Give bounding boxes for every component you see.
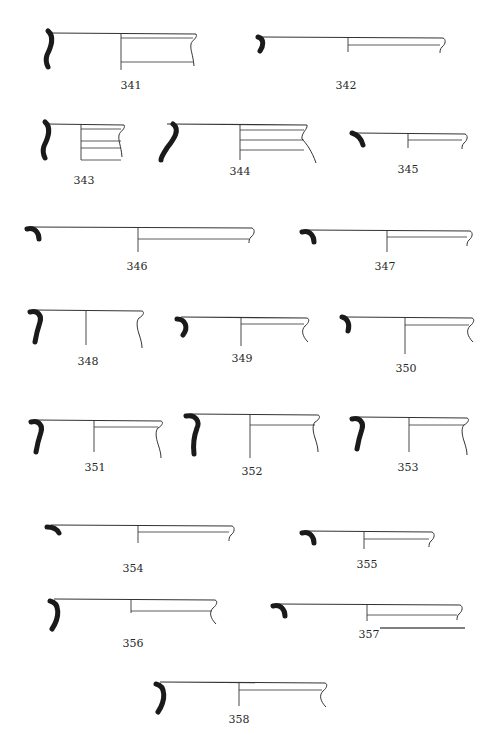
wall-outline bbox=[249, 228, 254, 243]
profile-drawings bbox=[0, 0, 498, 746]
wall-outline bbox=[440, 38, 445, 53]
wall-outline bbox=[429, 532, 434, 547]
profile-figure-341 bbox=[46, 31, 196, 70]
profile-figure-356 bbox=[50, 599, 217, 629]
section-profile bbox=[186, 416, 198, 454]
section-profile bbox=[342, 317, 349, 331]
figure-number: 349 bbox=[232, 352, 253, 365]
wall-outline bbox=[303, 318, 309, 342]
wall-outline bbox=[229, 526, 234, 541]
figure-number: 347 bbox=[375, 260, 396, 273]
profile-figure-347 bbox=[302, 230, 472, 252]
wall-outline bbox=[462, 418, 468, 455]
rim-line bbox=[356, 417, 467, 418]
rim-line bbox=[277, 604, 460, 605]
section-profile bbox=[27, 229, 39, 239]
profile-figure-358 bbox=[156, 682, 327, 712]
figure-number: 357 bbox=[359, 628, 380, 641]
figure-number: 355 bbox=[357, 558, 378, 571]
section-profile bbox=[177, 319, 186, 335]
rim-line bbox=[47, 124, 124, 125]
rim-line bbox=[54, 599, 215, 600]
wall-outline bbox=[137, 311, 143, 348]
profile-figure-346 bbox=[27, 227, 254, 252]
profile-figure-344 bbox=[161, 124, 316, 163]
rim-line bbox=[306, 531, 432, 532]
wall-outline bbox=[457, 605, 462, 620]
figure-number: 353 bbox=[398, 461, 419, 474]
profile-figure-348 bbox=[30, 310, 143, 348]
rim-line bbox=[31, 227, 252, 228]
wall-outline bbox=[191, 34, 197, 66]
rim-line bbox=[35, 420, 161, 421]
rim-line bbox=[346, 317, 472, 318]
figure-number: 350 bbox=[396, 362, 417, 375]
wall-outline bbox=[119, 125, 125, 157]
wall-outline bbox=[156, 421, 162, 458]
rim-line bbox=[356, 133, 465, 134]
wall-outline bbox=[467, 231, 472, 246]
section-profile bbox=[352, 419, 363, 449]
wall-outline bbox=[211, 600, 217, 624]
profile-figure-351 bbox=[31, 420, 162, 458]
profile-figure-352 bbox=[186, 414, 319, 458]
rim-line bbox=[181, 317, 307, 318]
wall-outline bbox=[313, 415, 319, 452]
figure-number: 358 bbox=[229, 713, 250, 726]
profile-figure-345 bbox=[352, 133, 467, 149]
profile-figure-357 bbox=[273, 604, 462, 621]
section-profile bbox=[352, 133, 363, 145]
profile-figure-349 bbox=[177, 317, 309, 346]
rim-line bbox=[167, 124, 307, 125]
section-profile bbox=[46, 31, 52, 67]
rim-line bbox=[160, 682, 325, 683]
profile-figure-355 bbox=[302, 531, 434, 549]
section-profile bbox=[156, 684, 164, 712]
section-profile bbox=[302, 533, 314, 543]
rim-line bbox=[50, 33, 196, 34]
rim-line bbox=[262, 37, 443, 38]
section-profile bbox=[273, 606, 285, 616]
section-profile bbox=[30, 312, 41, 342]
wall-outline bbox=[462, 134, 467, 149]
figure-number: 354 bbox=[123, 562, 144, 575]
figure-number: 344 bbox=[230, 165, 251, 178]
section-profile bbox=[47, 527, 59, 533]
section-profile bbox=[302, 232, 314, 242]
wall-outline bbox=[468, 318, 474, 342]
profile-figure-354 bbox=[47, 525, 234, 543]
figure-number: 343 bbox=[74, 174, 95, 187]
section-profile bbox=[161, 124, 176, 160]
rim-line bbox=[306, 230, 470, 231]
section-profile bbox=[258, 37, 263, 51]
figure-number: 346 bbox=[127, 260, 148, 273]
rim-line bbox=[190, 414, 318, 415]
profile-figure-342 bbox=[258, 37, 445, 53]
section-profile bbox=[50, 601, 58, 629]
figure-number: 348 bbox=[78, 355, 99, 368]
section-profile bbox=[43, 122, 49, 158]
profile-figure-350 bbox=[342, 317, 474, 354]
figure-number: 352 bbox=[242, 465, 263, 478]
figure-number: 341 bbox=[121, 79, 142, 92]
profile-figure-353 bbox=[352, 417, 468, 455]
figure-number: 351 bbox=[85, 461, 106, 474]
figure-number: 356 bbox=[123, 637, 144, 650]
section-profile bbox=[31, 422, 42, 452]
rim-line bbox=[51, 525, 232, 526]
wall-outline bbox=[321, 683, 327, 707]
wall-outline bbox=[302, 125, 316, 163]
profile-figure-343 bbox=[43, 122, 124, 160]
pottery-plate: 3413423433443453463473483493503513523533… bbox=[0, 0, 498, 746]
figure-number: 342 bbox=[336, 79, 357, 92]
rim-line bbox=[34, 310, 142, 311]
figure-number: 345 bbox=[398, 163, 419, 176]
